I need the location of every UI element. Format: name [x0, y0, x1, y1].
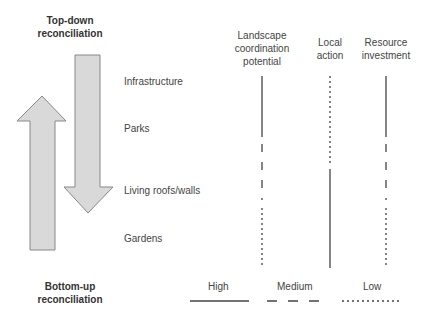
legend-label-high: High: [208, 280, 229, 293]
row-label-infrastructure: Infrastructure: [124, 75, 183, 88]
column-header-line: potential: [222, 55, 302, 68]
column-header-line: Local: [305, 36, 355, 49]
top-down-arrow-icon: [64, 55, 113, 213]
top-down-title: Top-down reconciliation: [30, 14, 110, 40]
top-down-title-line2: reconciliation: [30, 27, 110, 40]
row-label-living-roofs: Living roofs/walls: [124, 184, 200, 197]
row-label-gardens: Gardens: [124, 232, 162, 245]
legend-label-low: Low: [363, 280, 381, 293]
column-header-line: action: [305, 49, 355, 62]
top-down-title-line1: Top-down: [30, 14, 110, 27]
column-header-line: Resource: [356, 36, 416, 49]
column-header-landscape: Landscape coordination potential: [222, 29, 302, 68]
column-header-line: Landscape: [222, 29, 302, 42]
bottom-up-title-line2: reconciliation: [30, 293, 110, 306]
column-header-line: investment: [356, 49, 416, 62]
row-label-parks: Parks: [124, 122, 150, 135]
bottom-up-arrow-icon: [17, 96, 66, 250]
column-header-resource: Resource investment: [356, 36, 416, 62]
legend-label-medium: Medium: [277, 280, 313, 293]
column-header-local-action: Local action: [305, 36, 355, 62]
bottom-up-title-line1: Bottom-up: [30, 280, 110, 293]
column-header-line: coordination: [222, 42, 302, 55]
bottom-up-title: Bottom-up reconciliation: [30, 280, 110, 306]
